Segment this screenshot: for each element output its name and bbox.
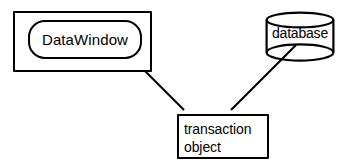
- transaction-object-label-line-2: object: [184, 138, 267, 156]
- database-node: database: [265, 11, 335, 62]
- transaction-object-node: transaction object: [177, 114, 269, 159]
- datawindow-node: DataWindow: [28, 20, 142, 59]
- database-label: database: [265, 26, 335, 40]
- diagram-canvas: DataWindow database transaction object: [0, 0, 348, 167]
- transaction-object-label-line-1: transaction: [184, 120, 267, 138]
- datawindow-label: DataWindow: [42, 32, 128, 47]
